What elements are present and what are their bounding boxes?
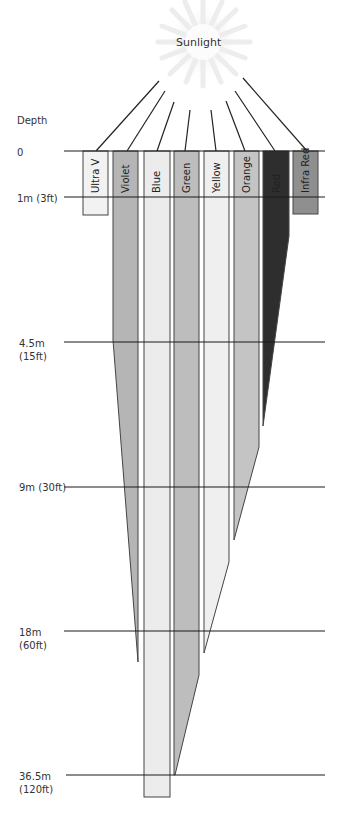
label-violet: Violet xyxy=(120,165,131,193)
depth-label-1m: 1m (3ft) xyxy=(17,192,58,205)
sunlight-rays xyxy=(96,78,307,151)
ray-infrared xyxy=(243,78,307,151)
ray-yellow xyxy=(211,110,216,151)
depth-label-18m-imperial: (60ft) xyxy=(19,639,47,652)
ray-blue xyxy=(157,102,174,151)
band-orange xyxy=(234,151,259,540)
depth-label-18m: 18m (60ft) xyxy=(19,626,47,652)
label-yellow: Yellow xyxy=(211,162,222,194)
sunlight-label: Sunlight xyxy=(176,36,221,49)
label-green: Green xyxy=(181,163,192,193)
depth-label-36-5m-metric: 36.5m xyxy=(19,770,53,783)
label-ultraviolet: Ultra V xyxy=(90,159,101,193)
depth-label-4-5m-metric: 4.5m xyxy=(19,337,47,350)
depth-label-4-5m: 4.5m (15ft) xyxy=(19,337,47,363)
light-penetration-diagram: Ultra V Violet Blue Green Yellow Orange … xyxy=(0,0,347,819)
band-violet xyxy=(113,151,138,662)
band-blue xyxy=(144,151,170,797)
band-yellow xyxy=(204,151,229,653)
label-red: Red xyxy=(271,174,282,193)
band-green xyxy=(174,151,199,775)
depth-label-36-5m-imperial: (120ft) xyxy=(19,783,53,796)
depth-label-18m-metric: 18m xyxy=(19,626,47,639)
label-orange: Orange xyxy=(241,156,252,193)
ray-green xyxy=(185,110,190,151)
depth-label-0: 0 xyxy=(17,146,23,159)
diagram-canvas: Ultra V Violet Blue Green Yellow Orange … xyxy=(0,0,347,819)
depth-label-4-5m-imperial: (15ft) xyxy=(19,350,47,363)
depth-axis-label: Depth xyxy=(17,114,47,127)
ray-orange xyxy=(226,101,245,151)
depth-label-9m: 9m (30ft) xyxy=(19,481,66,494)
label-blue: Blue xyxy=(151,171,162,193)
label-infrared: Infra Red xyxy=(300,148,311,193)
depth-label-36-5m: 36.5m (120ft) xyxy=(19,770,53,796)
light-bands xyxy=(83,151,318,797)
ray-violet xyxy=(127,91,165,151)
